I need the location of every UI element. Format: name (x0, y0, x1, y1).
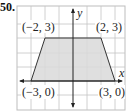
vertex-label-bottom-right: (3, 0) (99, 85, 125, 99)
y-axis-label: y (76, 6, 83, 20)
vertex-label-top-right: (2, 3) (96, 20, 122, 34)
vertex-label-top-left: (−2, 3) (22, 20, 55, 34)
vertex-label-bottom-left: (−3, 0) (22, 85, 55, 99)
x-axis-label: x (118, 66, 125, 80)
coordinate-graph: y x (−2, 3) (2, 3) (−3, 0) (3, 0) (0, 0, 131, 112)
